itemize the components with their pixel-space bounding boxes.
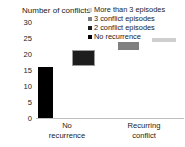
x-label-recurring-conflict-line1: Recurring xyxy=(104,121,184,131)
y-tick-10: 10 xyxy=(12,82,32,91)
legend-label-2-conflict-episodes: 2 conflict episodes xyxy=(94,23,155,32)
x-label-recurring-conflict-line2: conflict xyxy=(104,131,184,141)
y-tick-15: 15 xyxy=(12,66,32,75)
legend-label-no-recurrence: No recurrence xyxy=(94,32,141,41)
bar-recurring-conflict-segment-2-episodes xyxy=(72,50,95,66)
x-label-no-recurrence-line1: No xyxy=(36,121,98,131)
legend-swatch-2-conflict-episodes xyxy=(88,26,92,30)
bar-recurring-conflict-segment-3-episodes xyxy=(118,42,139,50)
y-axis-title: Number of conflicts xyxy=(22,6,90,15)
chart-container: Number of conflicts More than 3 episodes… xyxy=(0,0,185,147)
bar-recurring-conflict-segment-more-than-3-episodes xyxy=(152,38,176,42)
legend-item-3-conflict-episodes: 3 conflict episodes xyxy=(88,14,165,23)
y-tick-20: 20 xyxy=(12,50,32,59)
chart-legend: More than 3 episodes 3 conflict episodes… xyxy=(88,5,165,41)
x-axis-line xyxy=(36,118,184,119)
legend-swatch-no-recurrence xyxy=(88,35,92,39)
y-tick-0: 0 xyxy=(12,114,32,123)
legend-swatch-3-conflict-episodes xyxy=(88,17,92,21)
y-axis-ticks: 30 25 20 15 10 5 0 xyxy=(10,0,32,147)
legend-label-3-conflict-episodes: 3 conflict episodes xyxy=(94,14,155,23)
y-tick-5: 5 xyxy=(12,98,32,107)
legend-label-more-than-3-episodes: More than 3 episodes xyxy=(94,5,165,14)
legend-item-more-than-3-episodes: More than 3 episodes xyxy=(88,5,165,14)
x-label-no-recurrence-line2: recurrence xyxy=(36,131,98,141)
legend-item-2-conflict-episodes: 2 conflict episodes xyxy=(88,23,165,32)
y-tick-25: 25 xyxy=(12,34,32,43)
bar-no-recurrence-segment-no-recurrence xyxy=(38,67,53,118)
x-axis-labels: No recurrence Recurring conflict xyxy=(36,121,184,147)
y-tick-30: 30 xyxy=(12,18,32,27)
legend-swatch-more-than-3-episodes xyxy=(88,8,92,12)
